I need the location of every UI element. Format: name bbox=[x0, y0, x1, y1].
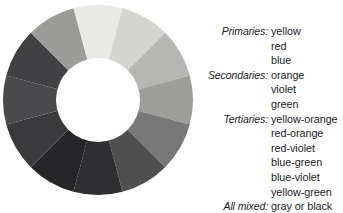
legend-row: red-violet bbox=[196, 141, 343, 156]
legend-color-name: orange bbox=[271, 68, 343, 83]
legend-row: Tertiaries:yellow-orange bbox=[196, 112, 343, 127]
legend-row: green bbox=[196, 97, 343, 112]
legend-row: Primaries:yellow bbox=[196, 24, 343, 39]
legend-category-label: All mixed: bbox=[196, 199, 271, 213]
legend-color-name: red bbox=[271, 39, 343, 54]
legend-row: yellow-green bbox=[196, 185, 343, 200]
legend-color-name: violet bbox=[271, 82, 343, 97]
legend-color-name: green bbox=[271, 97, 343, 112]
legend-category-label: Secondaries: bbox=[196, 68, 271, 83]
legend-color-name: blue-violet bbox=[271, 170, 343, 185]
legend-row: blue-violet bbox=[196, 170, 343, 185]
legend-color-name: yellow bbox=[271, 24, 343, 39]
legend-color-name: red-violet bbox=[271, 141, 343, 156]
legend-color-name: gray or black bbox=[271, 199, 343, 213]
legend-row: Secondaries:orange bbox=[196, 68, 343, 83]
legend-color-name: blue bbox=[271, 53, 343, 68]
legend-row: All mixed:gray or black bbox=[196, 199, 343, 213]
legend-color-name: blue-green bbox=[271, 155, 343, 170]
color-category-legend: Primaries:yellowredblueSecondaries:orang… bbox=[196, 24, 343, 213]
legend-row: red bbox=[196, 39, 343, 54]
color-wheel-svg bbox=[2, 2, 194, 199]
legend-color-name: yellow-green bbox=[271, 185, 343, 200]
color-wheel-figure bbox=[2, 2, 194, 199]
legend-row: red-orange bbox=[196, 126, 343, 141]
legend-color-name: red-orange bbox=[271, 126, 343, 141]
legend-row: blue bbox=[196, 53, 343, 68]
legend-category-label: Primaries: bbox=[196, 24, 271, 39]
page-root: Primaries:yellowredblueSecondaries:orang… bbox=[0, 0, 343, 213]
legend-category-label: Tertiaries: bbox=[196, 112, 271, 127]
legend-color-name: yellow-orange bbox=[271, 112, 343, 127]
legend-row: blue-green bbox=[196, 155, 343, 170]
color-wheel-center-hole bbox=[56, 58, 140, 142]
legend-row: violet bbox=[196, 82, 343, 97]
